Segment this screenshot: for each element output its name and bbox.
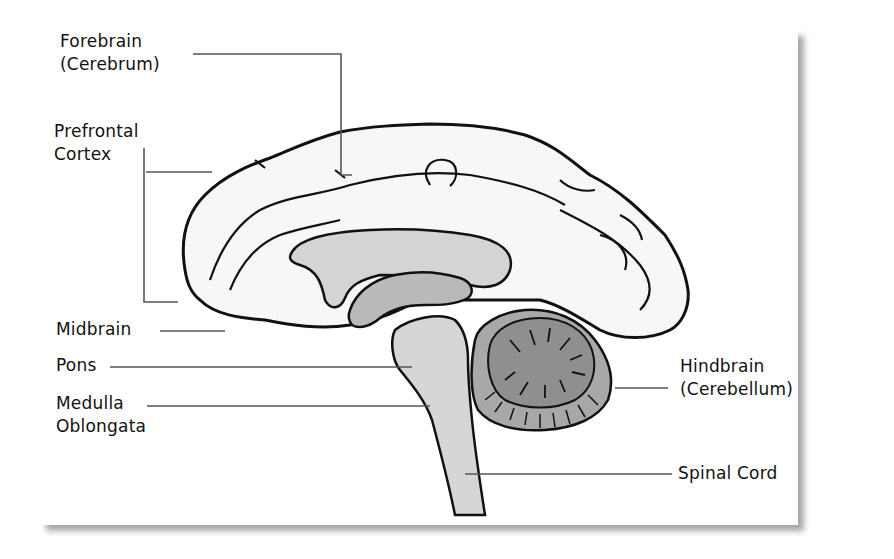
label-medulla-oblongata: Medulla Oblongata (56, 392, 146, 438)
label-pons: Pons (56, 354, 96, 377)
label-forebrain: Forebrain (Cerebrum) (60, 30, 160, 76)
label-forebrain-line2: (Cerebrum) (60, 53, 160, 76)
label-midbrain: Midbrain (56, 318, 131, 341)
label-prefrontal-line2: Cortex (54, 143, 139, 166)
prefrontal-vertical (144, 148, 178, 302)
label-spinal-cord: Spinal Cord (678, 462, 778, 485)
brainstem-shape (392, 316, 485, 515)
label-hindbrain-line2: (Cerebellum) (680, 378, 793, 401)
label-hindbrain-line1: Hindbrain (680, 355, 793, 378)
label-prefrontal-cortex: Prefrontal Cortex (54, 120, 139, 166)
cerebellum-inner-shape (488, 318, 594, 408)
label-prefrontal-line1: Prefrontal (54, 120, 139, 143)
label-hindbrain: Hindbrain (Cerebellum) (680, 355, 793, 401)
label-medulla-line2: Oblongata (56, 415, 146, 438)
label-forebrain-line1: Forebrain (60, 30, 160, 53)
label-medulla-line1: Medulla (56, 392, 146, 415)
